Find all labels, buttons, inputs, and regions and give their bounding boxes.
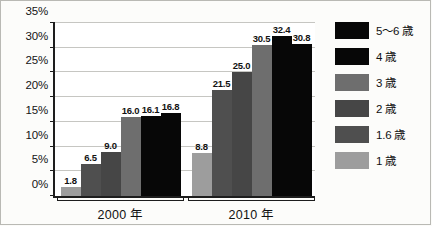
chart-legend: 5～6 歳4 歳3 歳2 歳1.6 歳1 歳 (335, 17, 429, 173)
bar-value-label: 30.5 (253, 33, 270, 44)
bar-group: 8.821.525.030.532.430.8 (192, 23, 312, 196)
bar: 21.5 (212, 90, 232, 196)
chart-frame: 0%5%10%15%20%25%30%35% 1.86.59.016.016.1… (0, 0, 431, 225)
legend-item-label: 4 歳 (376, 48, 396, 64)
bar-value-label: 25.0 (233, 60, 250, 71)
bar: 6.5 (81, 164, 101, 196)
legend-item-label: 1 歳 (376, 152, 396, 168)
bar-value-label: 32.4 (273, 24, 290, 35)
y-axis-tick-label: 15% (26, 104, 55, 116)
x-axis-category-label: 2000 年 (55, 204, 186, 223)
y-axis-tick-mark (50, 121, 55, 122)
legend-color-swatch (335, 152, 369, 169)
bar: 30.5 (252, 45, 272, 196)
bar-value-label: 8.8 (195, 141, 207, 152)
bar-value-label: 16.1 (142, 104, 159, 115)
bar-value-label: 21.5 (213, 78, 230, 89)
y-axis-tick-mark (50, 47, 55, 48)
legend-item[interactable]: 1.6 歳 (335, 121, 429, 147)
bar: 16.0 (121, 117, 141, 196)
bar-chart: 0%5%10%15%20%25%30%35% 1.86.59.016.016.1… (53, 23, 315, 198)
legend-color-swatch (335, 126, 369, 143)
bar: 1.8 (61, 187, 81, 196)
y-axis-tick-label: 25% (26, 54, 55, 66)
legend-item-label: 2 歳 (376, 100, 396, 116)
legend-color-swatch (335, 22, 369, 39)
y-axis-tick-mark (50, 22, 55, 23)
bar-value-label: 16.0 (122, 105, 139, 116)
y-axis-tick-mark (50, 71, 55, 72)
x-axis-category-label: 2010 年 (186, 204, 317, 223)
plot-area: 0%5%10%15%20%25%30%35% 1.86.59.016.016.1… (53, 23, 315, 198)
y-axis-tick-mark (50, 146, 55, 147)
bar-value-label: 16.8 (162, 101, 179, 112)
bar-value-label: 1.8 (64, 175, 76, 186)
y-axis-tick-label: 10% (26, 129, 55, 141)
legend-item[interactable]: 1 歳 (335, 147, 429, 173)
legend-color-swatch (335, 74, 369, 91)
bar: 8.8 (192, 153, 212, 196)
bar-value-label: 6.5 (84, 152, 96, 163)
legend-item-label: 3 歳 (376, 74, 396, 90)
y-axis-tick-mark (50, 96, 55, 97)
legend-item[interactable]: 2 歳 (335, 95, 429, 121)
bar: 32.4 (272, 36, 292, 196)
bar-value-label: 9.0 (104, 140, 116, 151)
legend-item[interactable]: 4 歳 (335, 43, 429, 69)
y-axis-tick-label: 35% (26, 5, 55, 17)
legend-color-swatch (335, 100, 369, 117)
bar: 25.0 (232, 72, 252, 196)
y-axis-tick-mark (50, 195, 55, 196)
bar: 16.1 (141, 116, 161, 196)
y-axis-tick-label: 20% (26, 79, 55, 91)
x-axis-bracket (188, 196, 315, 201)
y-axis-tick-label: 30% (26, 30, 55, 42)
bar: 16.8 (161, 113, 181, 196)
legend-color-swatch (335, 48, 369, 65)
legend-item-label: 1.6 歳 (376, 126, 405, 142)
legend-item[interactable]: 5～6 歳 (335, 17, 429, 43)
y-axis-tick-label: 0% (32, 178, 55, 190)
y-axis-tick-label: 5% (32, 153, 55, 165)
legend-item[interactable]: 3 歳 (335, 69, 429, 95)
bar: 9.0 (101, 152, 121, 196)
bar-value-label: 30.8 (293, 32, 310, 43)
bar-group: 1.86.59.016.016.116.8 (61, 23, 181, 196)
x-axis-bracket (57, 196, 184, 201)
y-axis-tick-mark (50, 170, 55, 171)
bar: 30.8 (292, 44, 312, 196)
legend-item-label: 5～6 歳 (376, 22, 413, 38)
